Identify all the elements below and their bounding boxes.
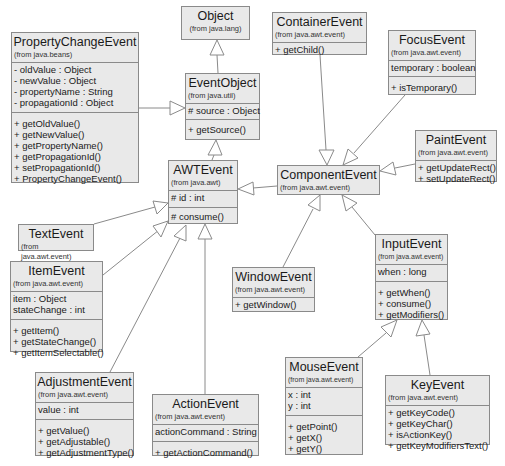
- methods-section: + getUpdateRect() + setUpdateRect(): [416, 160, 496, 185]
- methods-section: + getWhen() + consume() + getModifiers(): [376, 281, 447, 321]
- method: + getValue(): [38, 425, 131, 436]
- class-package: (from java.awt.event): [416, 148, 496, 160]
- methods-section: + getWindow(): [233, 297, 314, 311]
- class-focusevent[interactable]: FocusEvent (from java.awt.event) tempora…: [388, 30, 476, 95]
- class-awtevent[interactable]: AWTEvent (from java.awt) # id : int # co…: [168, 160, 238, 224]
- method: + isTemporary(): [391, 82, 473, 93]
- edge-eventobject-object: [217, 55, 218, 73]
- attribute: - propertyName : String: [14, 86, 136, 97]
- method: + getPropagationId(): [14, 151, 136, 162]
- class-componentevent[interactable]: ComponentEvent (from java.awt.event): [277, 165, 380, 195]
- attribute: - propagationId : Object: [14, 97, 136, 108]
- attribute: # id : int: [171, 192, 235, 203]
- methods-section: + getSource(): [186, 119, 259, 136]
- method: # consume(): [171, 211, 235, 222]
- attribute: value : int: [38, 404, 131, 415]
- attribute: temporary : boolean: [391, 62, 473, 73]
- class-name: Object: [182, 7, 249, 24]
- class-package: (from java.awt.event): [36, 390, 133, 402]
- attributes-section: # source : Object: [186, 103, 259, 119]
- class-containerevent[interactable]: ContainerEvent (from java.awt.event) + g…: [272, 12, 367, 55]
- arrowhead-eventobject-left: [170, 101, 185, 115]
- method: + isActionKey(): [388, 429, 487, 440]
- class-itemevent[interactable]: ItemEvent (from java.awt.event) item : O…: [10, 261, 103, 352]
- method: + getWhen(): [378, 287, 445, 298]
- arrowhead-eventobject-bottom: [208, 140, 222, 155]
- method: + getX(): [288, 432, 360, 443]
- method: + getKeyModifiersText(): [388, 440, 487, 451]
- class-mouseevent[interactable]: MouseEvent (from java.awt.event) x : int…: [285, 357, 363, 455]
- method: + getKeyCode(): [388, 407, 487, 418]
- attribute: item : Object: [13, 293, 100, 304]
- method: + consume(): [378, 298, 445, 309]
- class-package: (from java.awt.event): [286, 375, 362, 387]
- class-name: TextEvent: [19, 225, 93, 242]
- methods-section: + getOldValue() + getNewValue() + getPro…: [12, 112, 138, 185]
- attributes-section: when : long: [376, 264, 447, 281]
- arrowhead-componentevent-right: [380, 162, 396, 175]
- class-windowevent[interactable]: WindowEvent (from java.awt.event) + getW…: [232, 267, 315, 312]
- methods-section: + isTemporary(): [389, 76, 475, 94]
- methods-section: # consume(): [169, 207, 237, 223]
- attribute: x : int: [288, 389, 360, 400]
- class-eventobject[interactable]: EventObject (from java.util) # source : …: [185, 73, 260, 140]
- arrowhead-componentevent-bottom1: [308, 195, 320, 211]
- attributes-section: x : int y : int: [286, 387, 362, 415]
- arrowhead-awtevent-bottom2: [198, 224, 212, 239]
- class-object[interactable]: Object (from java.lang): [181, 6, 250, 40]
- class-package: (from java.util): [186, 91, 259, 103]
- method: + getUpdateRect(): [418, 162, 494, 173]
- class-inputevent[interactable]: InputEvent (from java.awt.event) when : …: [375, 234, 448, 320]
- class-package: (from java.lang): [182, 24, 249, 36]
- class-name: PaintEvent: [416, 131, 496, 148]
- attribute: # source : Object: [188, 105, 257, 116]
- method: + getPoint(): [288, 421, 360, 432]
- attribute: y : int: [288, 400, 360, 411]
- class-package: (from java.awt.event): [376, 252, 447, 264]
- class-name: InputEvent: [376, 235, 447, 252]
- class-name: PropertyChangeEvent: [12, 33, 138, 50]
- arrowhead-componentevent-top1: [319, 150, 334, 165]
- method: + getOldValue(): [14, 118, 136, 129]
- method: + getActionCommand(): [155, 447, 256, 458]
- class-propertychangeevent[interactable]: PropertyChangeEvent (from java.beans) - …: [11, 32, 139, 183]
- methods-section: + getValue() + getAdjustable() + getAdju…: [36, 419, 133, 459]
- method: + getNewValue(): [14, 129, 136, 140]
- class-textevent[interactable]: TextEvent (from java.awt.event): [18, 224, 94, 251]
- class-package: (from java.awt.event): [278, 183, 379, 195]
- attribute: actionCommand : String: [155, 426, 256, 437]
- method: + getSource(): [188, 124, 257, 135]
- method: + getKeyChar(): [388, 418, 487, 429]
- methods-section: + getItem() + getStateChange() + getItem…: [11, 319, 102, 359]
- class-name: EventObject: [186, 74, 259, 91]
- arrowhead-object: [210, 40, 224, 55]
- method: + getItemSelectable(): [13, 347, 100, 358]
- method: + setUpdateRect(): [418, 173, 494, 184]
- method: + getAdjustmentType(): [38, 447, 131, 458]
- class-package: (from java.awt.event): [386, 393, 489, 405]
- arrowhead-inputevent-bottom1: [381, 320, 397, 337]
- class-name: FocusEvent: [389, 31, 475, 48]
- attribute: - newValue : Object: [14, 75, 136, 86]
- arrowhead-awtevent-left1: [153, 201, 168, 214]
- class-actionevent[interactable]: ActionEvent (from java.awt.event) action…: [152, 394, 259, 456]
- methods-section: + getChild(): [273, 42, 366, 56]
- attributes-section: - oldValue : Object - newValue : Object …: [12, 62, 138, 112]
- class-name: ComponentEvent: [278, 166, 379, 183]
- attributes-section: item : Object stateChange : int: [11, 291, 102, 319]
- arrowhead-inputevent-bottom2: [416, 320, 430, 336]
- method: + getAdjustable(): [38, 436, 131, 447]
- class-package: (from java.awt.event): [11, 279, 102, 291]
- method: + getItem(): [13, 325, 100, 336]
- class-paintevent[interactable]: PaintEvent (from java.awt.event) + getUp…: [415, 130, 497, 182]
- attribute: stateChange : int: [13, 304, 100, 315]
- attribute: when : long: [378, 266, 445, 277]
- attribute: - oldValue : Object: [14, 64, 136, 75]
- class-adjustmentevent[interactable]: AdjustmentEvent (from java.awt.event) va…: [35, 372, 134, 456]
- class-keyevent[interactable]: KeyEvent (from java.awt.event) + getKeyC…: [385, 375, 490, 445]
- class-name: ContainerEvent: [273, 13, 366, 30]
- method: + getY(): [288, 443, 360, 454]
- class-name: KeyEvent: [386, 376, 489, 393]
- methods-section: + getKeyCode() + getKeyChar() + isAction…: [386, 405, 489, 452]
- class-package: (from java.awt.event): [153, 412, 258, 424]
